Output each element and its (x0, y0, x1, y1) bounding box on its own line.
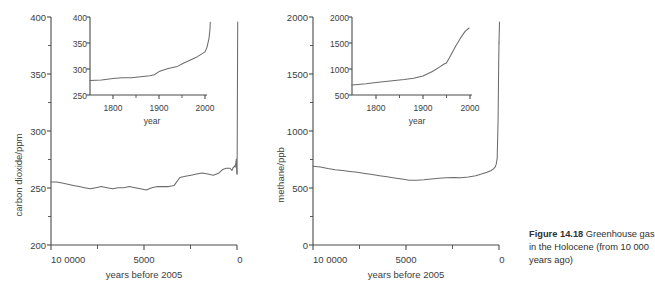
inset-y-tick-label-1500: 1500 (330, 39, 349, 49)
inset-x-tick-label-2000: 2000 (196, 103, 215, 113)
y-tick-label-350: 350 (30, 69, 46, 80)
carbon-dioxide-curve (51, 159, 237, 190)
x-axis-label: years before 2005 (106, 269, 183, 280)
inset-x-tick-label-1800: 1800 (104, 103, 123, 113)
x-tick-label-5000: 5000 (133, 254, 154, 265)
methane-svg: methane/ppb 2000 1500 1000 500 0 10 0000 (262, 0, 527, 293)
x-tick-label-5000: 5000 (395, 254, 416, 265)
inset-y-tick-label-2000: 2000 (330, 13, 349, 23)
inset-x-axis-label: year (409, 116, 426, 126)
figure-caption: Figure 14.18 Greenhouse gas in the Holoc… (529, 228, 655, 268)
inset-y-tick-label-300: 300 (73, 65, 87, 75)
x-tick-label-10000: 10 0000 (51, 254, 85, 265)
carbon-dioxide-inset: 400 350 300 250 1800 1900 2000 year (73, 13, 215, 126)
inset-y-tick-label-500: 500 (335, 91, 349, 101)
figure-caption-label: Figure 14.18 (529, 229, 583, 239)
carbon-dioxide-inset-curve (90, 22, 210, 80)
carbon-dioxide-chart: carbon dioxide/ppm 400 350 300 250 200 (0, 0, 265, 293)
inset-x-tick-label-1800: 1800 (367, 103, 386, 113)
x-axis-label: years before 2005 (368, 269, 445, 280)
y-tick-label-0: 0 (303, 240, 308, 251)
inset-x-tick-label-1900: 1900 (150, 103, 169, 113)
x-tick-label-10000: 10 0000 (313, 254, 347, 265)
methane-inset-curve (352, 28, 469, 85)
y-tick-label-2000: 2000 (287, 12, 308, 23)
y-tick-label-300: 300 (30, 126, 46, 137)
inset-y-tick-label-350: 350 (73, 39, 87, 49)
inset-x-axis-label: year (144, 116, 161, 126)
y-tick-label-1500: 1500 (287, 69, 308, 80)
methane-modern-spike (499, 22, 500, 43)
y-tick-label-400: 400 (30, 12, 46, 23)
figure-14-18: carbon dioxide/ppm 400 350 300 250 200 (0, 0, 655, 293)
y-tick-label-500: 500 (292, 183, 308, 194)
inset-x-tick-label-2000: 2000 (461, 103, 480, 113)
y-tick-label-250: 250 (30, 183, 46, 194)
inset-x-tick-label-1900: 1900 (414, 103, 433, 113)
inset-y-tick-label-250: 250 (73, 91, 87, 101)
x-tick-label-0: 0 (237, 254, 242, 265)
carbon-dioxide-svg: carbon dioxide/ppm 400 350 300 250 200 (0, 0, 265, 293)
y-tick-label-200: 200 (30, 240, 46, 251)
y-tick-label-1000: 1000 (287, 126, 308, 137)
y-axis-label: carbon dioxide/ppm (13, 133, 24, 216)
carbon-dioxide-modern-spike (237, 22, 238, 174)
methane-chart: methane/ppb 2000 1500 1000 500 0 10 0000 (262, 0, 527, 293)
x-tick-label-0: 0 (499, 254, 504, 265)
inset-y-tick-label-1000: 1000 (330, 65, 349, 75)
inset-y-tick-label-400: 400 (73, 13, 87, 23)
methane-inset: 2000 1500 1000 500 1800 1900 2000 year (330, 13, 480, 126)
y-axis-label: methane/ppb (275, 147, 286, 202)
